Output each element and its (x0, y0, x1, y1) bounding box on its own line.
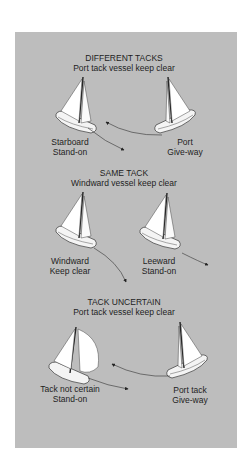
section-subtitle: Windward vessel keep clear (64, 178, 184, 188)
boat-label: Starboard (40, 137, 100, 147)
boat-label: Port (160, 137, 210, 147)
section-title-same-tack: SAME TACK (74, 168, 174, 178)
boat-label: Port tack (165, 385, 215, 395)
boat-label: Tack not certain (35, 384, 105, 394)
section-subtitle: Port tack vessel keep clear (64, 63, 184, 73)
section-subtitle: Port tack vessel keep clear (64, 307, 184, 317)
boat-label: Windward (45, 256, 95, 266)
boat-status: Keep clear (45, 266, 95, 276)
boat-status: Give-way (165, 395, 215, 405)
boat-windward (56, 192, 96, 248)
boat-status: Stand-on (40, 147, 100, 157)
boat-starboard (56, 77, 96, 133)
boat-leeward (140, 193, 180, 249)
boat-tack-uncertain (49, 327, 99, 384)
boat-port (155, 77, 196, 133)
section-title-tack-uncertain: TACK UNCERTAIN (74, 297, 174, 307)
boat-status: Give-way (160, 147, 210, 157)
boat-status: Stand-on (134, 266, 184, 276)
boat-status: Stand-on (35, 394, 105, 404)
boat-label: Leeward (134, 256, 184, 266)
section-title-different-tacks: DIFFERENT TACKS (74, 53, 174, 63)
boat-port-tack (167, 322, 208, 378)
